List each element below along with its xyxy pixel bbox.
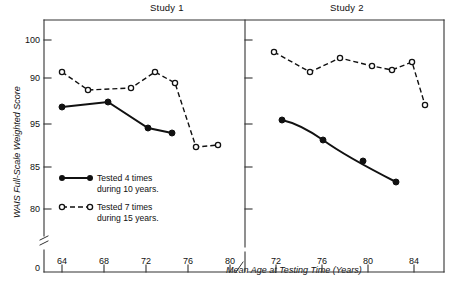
data-point [393,179,399,185]
legend-swatch-dashed-marker-right [87,204,92,209]
data-point [409,59,414,64]
data-point [271,49,276,54]
data-point [152,69,157,74]
study2-series-tested-4-times [279,117,399,185]
data-point [215,142,220,147]
data-point [59,69,64,74]
data-point [85,87,90,92]
axis-break-icon [40,236,48,245]
study1-series-tested-7-times [59,69,220,149]
study2-solid-line [282,120,396,182]
study1-series-tested-4-times [59,99,175,136]
study2-dashed-line [274,52,425,105]
data-point [128,85,133,90]
data-point [369,63,374,68]
data-point [389,67,394,72]
legend-swatches [59,175,93,210]
study1-solid-line [62,102,172,133]
data-point [422,102,427,107]
data-point [307,69,312,74]
data-point [145,125,151,131]
legend-swatch-dashed-marker-left [59,204,64,209]
study2-series-tested-7-times [271,49,427,107]
data-point [172,80,177,85]
study2-dashed-markers [271,49,427,107]
data-point [279,117,285,123]
data-point [169,130,175,136]
chart-figure: WAIS Full-Scale Weighted Score Mean Age … [0,0,452,287]
study1-dashed-markers [59,69,220,149]
legend-swatch-solid-marker-right [87,175,93,181]
data-point [360,158,366,164]
panel-gap-break [236,262,243,272]
data-point [337,55,342,60]
data-point [193,144,198,149]
data-point [105,99,111,105]
plot-canvas [0,0,452,287]
study1-dashed-line [62,72,218,147]
data-point [59,104,65,110]
legend-swatch-solid-marker-left [59,175,65,181]
data-point [320,137,326,143]
